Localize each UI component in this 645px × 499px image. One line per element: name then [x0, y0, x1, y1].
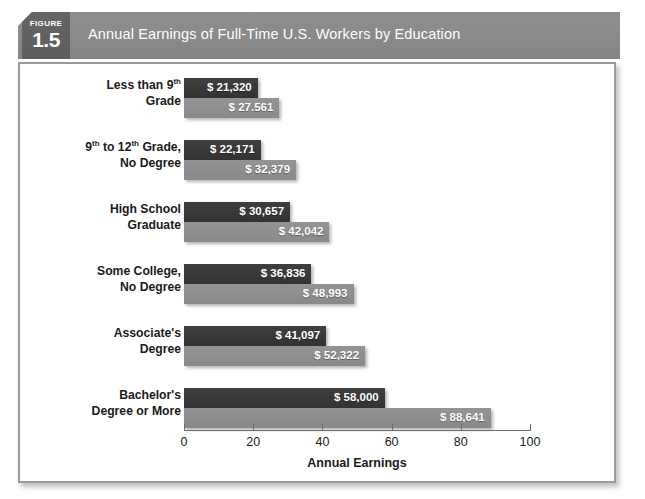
bar-value-label: $ 22,171	[210, 143, 255, 155]
figure-title: Annual Earnings of Full-Time U.S. Worker…	[88, 26, 460, 42]
x-axis-tick	[530, 424, 531, 431]
x-axis-title: Annual Earnings	[184, 456, 530, 470]
bar-value-label: $ 88,641	[440, 411, 485, 423]
chart-bar-group: Less than 9thGrade$ 21,320$ 27.561	[20, 78, 618, 125]
x-axis-tick	[322, 424, 323, 431]
bar-value-label: $ 36,836	[261, 267, 306, 279]
bar-value-label: $ 42,042	[279, 225, 324, 237]
bar-value-label: $ 41,097	[275, 329, 320, 341]
bar-light: $ 88,641	[184, 408, 491, 428]
bar-light: $ 32,379	[184, 160, 296, 180]
category-label: 9th to 12th Grade,No Degree	[0, 140, 181, 171]
category-label: Less than 9thGrade	[0, 78, 181, 109]
x-axis-tick-label: 40	[302, 435, 342, 449]
bar-value-label: $ 58,000	[334, 391, 379, 403]
x-axis-tick	[184, 424, 185, 431]
x-axis-tick	[392, 424, 393, 431]
bar-dark: $ 22,171	[184, 140, 261, 160]
chart-frame: Less than 9thGrade$ 21,320$ 27.5619th to…	[18, 62, 616, 483]
chart-bar-group: 9th to 12th Grade,No Degree$ 22,171$ 32,…	[20, 140, 618, 187]
chart-plot-area: Less than 9thGrade$ 21,320$ 27.5619th to…	[20, 64, 618, 485]
bar-value-label: $ 30,657	[239, 205, 284, 217]
bar-light: $ 48,993	[184, 284, 354, 304]
bar-dark: $ 21,320	[184, 78, 258, 98]
x-axis-line	[184, 430, 530, 431]
x-axis-tick-label: 100	[510, 435, 550, 449]
x-axis-tick	[461, 424, 462, 431]
bar-dark: $ 36,836	[184, 264, 311, 284]
chart-bar-group: Associate'sDegree$ 41,097$ 52,322	[20, 326, 618, 373]
bar-dark: $ 41,097	[184, 326, 326, 346]
chart-bar-group: High SchoolGraduate$ 30,657$ 42,042	[20, 202, 618, 249]
bar-light: $ 52,322	[184, 346, 365, 366]
category-label: Some College,No Degree	[0, 264, 181, 295]
x-axis-tick-label: 20	[233, 435, 273, 449]
x-axis-tick	[253, 424, 254, 431]
bar-value-label: $ 32,379	[245, 163, 290, 175]
chart-bar-group: Bachelor'sDegree or More$ 58,000$ 88,641	[20, 388, 618, 435]
chart-bar-group: Some College,No Degree$ 36,836$ 48,993	[20, 264, 618, 311]
x-axis-tick-label: 80	[441, 435, 481, 449]
bar-value-label: $ 21,320	[207, 81, 252, 93]
bar-dark: $ 58,000	[184, 388, 385, 408]
category-label: High SchoolGraduate	[0, 202, 181, 233]
figure-badge: FIGURE 1.5	[22, 12, 70, 59]
bar-dark: $ 30,657	[184, 202, 290, 222]
category-label: Associate'sDegree	[0, 326, 181, 357]
figure-badge-number: 1.5	[22, 29, 70, 51]
x-axis-tick-label: 60	[372, 435, 412, 449]
bar-light: $ 42,042	[184, 222, 329, 242]
bar-value-label: $ 27.561	[229, 101, 274, 113]
category-label: Bachelor'sDegree or More	[0, 388, 181, 419]
bar-light: $ 27.561	[184, 98, 279, 118]
figure-badge-label: FIGURE	[22, 19, 70, 28]
bar-value-label: $ 52,322	[314, 349, 359, 361]
x-axis-tick-label: 0	[164, 435, 204, 449]
bar-value-label: $ 48,993	[303, 287, 348, 299]
